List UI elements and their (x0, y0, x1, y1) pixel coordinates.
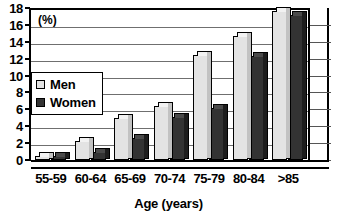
y-tick-label: 16 (9, 18, 23, 31)
legend: Men Women (31, 72, 103, 115)
y-tick-label: 0 (16, 154, 23, 167)
side-wall-rung (310, 143, 331, 144)
bar-men (75, 141, 90, 160)
legend-item-women: Women (36, 93, 98, 111)
y-tick-label: 18 (9, 2, 23, 15)
legend-item-men: Men (36, 75, 98, 93)
bar-chart-figure: 024681012141618 (%) Men Women 55-5960-64… (0, 0, 337, 218)
bar-side-face (247, 32, 252, 159)
bar-front-face (155, 107, 168, 159)
bar-group (150, 8, 190, 160)
bar-men (272, 11, 287, 160)
bar-side-face (263, 52, 268, 159)
side-wall-rung (310, 92, 331, 93)
bar-group (110, 8, 150, 160)
legend-label-men: Men (50, 78, 75, 91)
side-wall-rung (310, 59, 331, 60)
bar-men (154, 106, 169, 160)
y-tick-label: 10 (9, 69, 23, 82)
bar-group (268, 8, 308, 160)
legend-swatch-men-icon (36, 80, 45, 89)
y-tick-label: 2 (16, 137, 23, 150)
bar-side-face (184, 113, 189, 159)
bar-side-face (302, 11, 307, 159)
bar-men (233, 36, 248, 160)
bar-side-face (168, 102, 173, 159)
y-axis: 024681012141618 (0, 8, 30, 160)
bar-front-face (194, 56, 207, 159)
y-tick-label: 4 (16, 120, 23, 133)
bar-side-face (223, 104, 228, 159)
x-axis-title: Age (years) (0, 196, 337, 211)
bar-men (114, 118, 129, 160)
side-wall-rung (310, 25, 331, 26)
side-wall-rung (310, 126, 331, 127)
y-tick-label: 6 (16, 103, 23, 116)
bar-front-face (234, 37, 247, 159)
bar-side-face (89, 137, 94, 159)
x-tick-label: 70-74 (154, 172, 185, 185)
x-tick-label: 55-59 (35, 172, 66, 185)
legend-swatch-women-icon (36, 98, 45, 107)
bar-group (229, 8, 269, 160)
bar-side-face (128, 114, 133, 159)
bar-side-face (286, 7, 291, 159)
bar-side-face (65, 152, 70, 159)
legend-label-women: Women (50, 96, 96, 109)
x-tick-label: >85 (278, 172, 299, 185)
x-tick-label: 60-64 (75, 172, 106, 185)
plot-floor (31, 160, 329, 169)
x-tick-label: 80-84 (233, 172, 264, 185)
x-tick-label: 75-79 (193, 172, 224, 185)
bar-side-face (49, 152, 54, 159)
side-wall-rung (310, 76, 331, 77)
bar-front-face (115, 119, 128, 159)
side-wall-rung (310, 42, 331, 43)
bar-front-face (273, 12, 286, 159)
bar-front-face (76, 142, 89, 159)
x-tick-label: 65-69 (114, 172, 145, 185)
y-tick-label: 14 (9, 35, 23, 48)
bar-front-face (36, 157, 49, 159)
plot-side-wall (308, 8, 329, 160)
bar-men (193, 55, 208, 160)
y-axis-unit-label: (%) (38, 13, 57, 27)
bar-group (189, 8, 229, 160)
bar-side-face (105, 148, 110, 159)
bar-men (35, 156, 50, 160)
side-wall-rung (310, 109, 331, 110)
x-axis-tick-labels: 55-5960-6465-6970-7475-7980-84>85 (31, 172, 308, 188)
y-tick-label: 12 (9, 52, 23, 65)
bar-side-face (207, 51, 212, 159)
y-tick-label: 8 (16, 86, 23, 99)
bar-side-face (144, 134, 149, 159)
